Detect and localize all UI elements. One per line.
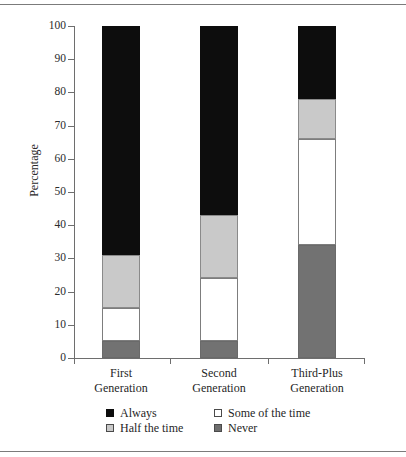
y-axis-tick-label: 30 bbox=[26, 252, 66, 264]
x-axis-category-label-line: Second bbox=[201, 366, 236, 380]
legend-swatch-half-icon bbox=[106, 424, 114, 432]
x-axis-line bbox=[74, 358, 365, 359]
bar-segment-never[interactable] bbox=[102, 341, 140, 358]
x-axis-tick bbox=[268, 359, 269, 364]
stacked-bar[interactable] bbox=[102, 26, 140, 358]
bar-segment-always[interactable] bbox=[102, 26, 140, 255]
legend-item-label: Half the time bbox=[120, 422, 183, 434]
stacked-bar[interactable] bbox=[200, 26, 238, 358]
bar-segment-some[interactable] bbox=[200, 278, 238, 341]
y-axis-title: Percentage bbox=[27, 111, 42, 231]
bar-segment-never[interactable] bbox=[200, 341, 238, 358]
legend-item-label: Never bbox=[228, 422, 257, 434]
bar-segment-always[interactable] bbox=[298, 26, 336, 99]
y-axis-tick-label: 100 bbox=[26, 20, 66, 32]
legend-item-always[interactable]: Always bbox=[106, 407, 214, 419]
x-axis-tick bbox=[74, 359, 75, 364]
x-axis-category-label-line: Third-Plus bbox=[291, 366, 342, 380]
figure-container: 0102030405060708090100 Percentage FirstG… bbox=[0, 0, 406, 457]
bar-segment-some[interactable] bbox=[102, 308, 140, 341]
legend-item-never[interactable]: Never bbox=[214, 422, 336, 434]
y-axis-tick-label: 20 bbox=[26, 286, 66, 298]
y-axis-tick-label: 0 bbox=[26, 352, 66, 364]
chart-legend: AlwaysSome of the timeHalf the timeNever bbox=[106, 407, 336, 434]
plot-area bbox=[74, 26, 364, 358]
y-axis-tick-label: 10 bbox=[26, 319, 66, 331]
stacked-bar[interactable] bbox=[298, 26, 336, 358]
bar-segment-half[interactable] bbox=[102, 255, 140, 308]
y-axis-tick-label: 90 bbox=[26, 53, 66, 65]
bar-segment-half[interactable] bbox=[298, 99, 336, 139]
x-axis-tick bbox=[170, 359, 171, 364]
bar-segment-always[interactable] bbox=[200, 26, 238, 215]
bar-segment-some[interactable] bbox=[298, 139, 336, 245]
x-axis-tick bbox=[364, 359, 365, 364]
legend-item-label: Always bbox=[120, 407, 157, 419]
legend-swatch-always-icon bbox=[106, 409, 114, 417]
bar-segment-never[interactable] bbox=[298, 245, 336, 358]
bar-segment-half[interactable] bbox=[200, 215, 238, 278]
x-axis-category-label-line: First bbox=[110, 366, 132, 380]
x-axis-category-label-line: Generation bbox=[257, 381, 377, 396]
legend-item-label: Some of the time bbox=[228, 407, 310, 419]
legend-item-half[interactable]: Half the time bbox=[106, 422, 214, 434]
legend-swatch-some-icon bbox=[214, 409, 222, 417]
x-axis-category-label: Third-PlusGeneration bbox=[257, 366, 377, 396]
legend-swatch-never-icon bbox=[214, 424, 222, 432]
legend-item-some[interactable]: Some of the time bbox=[214, 407, 336, 419]
y-axis-tick-label: 80 bbox=[26, 86, 66, 98]
